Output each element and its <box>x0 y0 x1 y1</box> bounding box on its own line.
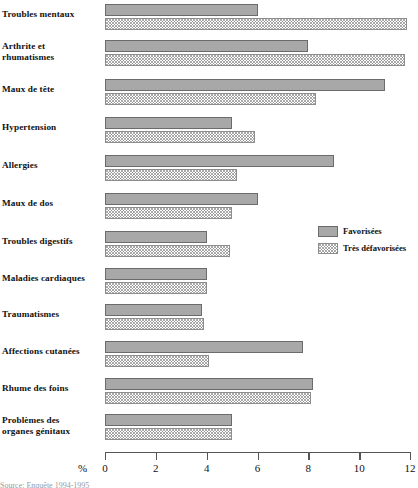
category-label: Troubles mentaux <box>2 9 100 20</box>
category-label-line: Problèmes des <box>2 415 100 426</box>
grouped-bar-chart: Troubles mentauxArthrite etrhumatismesMa… <box>0 0 418 488</box>
category-label: Affections cutanées <box>2 346 100 357</box>
x-axis-tick-label: 12 <box>405 462 416 474</box>
category-label: Troubles digestifs <box>2 236 100 247</box>
category-label: Hypertension <box>2 122 100 133</box>
category-label-line: Allergies <box>2 160 100 171</box>
bar-favorisees <box>105 79 385 91</box>
bar-tres-defavorisees <box>105 318 204 330</box>
legend-item-tres-defavorisees: Très défavorisées <box>318 241 418 255</box>
bar-favorisees <box>105 231 207 243</box>
x-axis-tick <box>410 452 411 460</box>
category-label: Problèmes desorganes génitaux <box>2 415 100 437</box>
x-axis-tick <box>359 452 360 460</box>
x-axis-tick-label: 10 <box>354 462 365 474</box>
bar-favorisees <box>105 40 308 52</box>
bar-tres-defavorisees <box>105 207 232 219</box>
legend-label-favorisees: Favorisées <box>343 226 382 236</box>
category-label-line: Traumatismes <box>2 309 100 320</box>
category-label-line: Affections cutanées <box>2 346 100 357</box>
bar-tres-defavorisees <box>105 169 237 181</box>
x-axis-tick-label: 2 <box>153 462 159 474</box>
bar-tres-defavorisees <box>105 93 316 105</box>
category-label: Allergies <box>2 160 100 171</box>
bar-tres-defavorisees <box>105 355 209 367</box>
bar-tres-defavorisees <box>105 392 311 404</box>
category-label-line: rhumatismes <box>2 52 100 63</box>
cut-off-caption: Source: Enquête 1994-1995 <box>0 481 170 488</box>
bar-tres-defavorisees <box>105 18 407 30</box>
category-label: Maux de dos <box>2 198 100 209</box>
bar-tres-defavorisees <box>105 282 207 294</box>
bar-favorisees <box>105 155 334 167</box>
bar-tres-defavorisees <box>105 428 232 440</box>
x-axis-tick <box>207 452 208 460</box>
bar-favorisees <box>105 341 303 353</box>
category-label: Maladies cardiaques <box>2 273 100 284</box>
category-label: Arthrite etrhumatismes <box>2 41 100 63</box>
category-label-line: Maladies cardiaques <box>2 273 100 284</box>
category-label-line: Troubles mentaux <box>2 9 100 20</box>
bar-favorisees <box>105 193 258 205</box>
x-axis-tick-label: 0 <box>102 462 108 474</box>
chart-legend: Favorisées Très défavorisées <box>318 224 418 258</box>
category-label-line: Arthrite et <box>2 41 100 52</box>
bar-favorisees <box>105 304 202 316</box>
bar-tres-defavorisees <box>105 54 405 66</box>
x-axis-tick <box>308 452 309 460</box>
x-axis-tick <box>258 452 259 460</box>
category-label: Traumatismes <box>2 309 100 320</box>
legend-label-tres-defavorisees: Très défavorisées <box>343 243 406 253</box>
bar-favorisees <box>105 268 207 280</box>
bar-favorisees <box>105 117 232 129</box>
bar-favorisees <box>105 4 258 16</box>
bar-favorisees <box>105 414 232 426</box>
category-label: Maux de tête <box>2 84 100 95</box>
category-label: Rhume des foins <box>2 383 100 394</box>
category-label-line: organes génitaux <box>2 426 100 437</box>
dotted-swatch-icon <box>318 243 338 254</box>
bar-favorisees <box>105 378 313 390</box>
x-axis-tick-label: 4 <box>204 462 210 474</box>
category-label-line: Troubles digestifs <box>2 236 100 247</box>
x-axis-tick-label: 6 <box>255 462 261 474</box>
x-axis-tick <box>156 452 157 460</box>
solid-gray-swatch-icon <box>318 226 338 237</box>
x-axis-unit-label: % <box>78 462 87 474</box>
legend-item-favorisees: Favorisées <box>318 224 418 238</box>
x-axis-tick <box>105 452 106 460</box>
category-label-line: Maux de tête <box>2 84 100 95</box>
category-label-line: Rhume des foins <box>2 383 100 394</box>
category-label-line: Hypertension <box>2 122 100 133</box>
bar-tres-defavorisees <box>105 245 230 257</box>
x-axis-tick-label: 8 <box>306 462 312 474</box>
bar-tres-defavorisees <box>105 131 255 143</box>
category-label-line: Maux de dos <box>2 198 100 209</box>
